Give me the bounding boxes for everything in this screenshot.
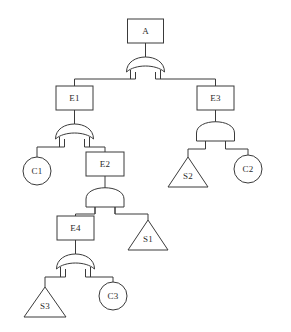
and-gate-icon (197, 122, 235, 141)
node-e3[interactable]: E3 (197, 86, 234, 110)
node-e3-label: E3 (210, 93, 221, 103)
node-c3-label: C3 (108, 291, 119, 301)
node-e1-label: E1 (69, 93, 79, 103)
node-e4[interactable]: E4 (57, 216, 94, 240)
node-e4-label: E4 (70, 223, 81, 233)
edge-gate-e4-right-to-c3 (86, 269, 114, 282)
node-c2-label: C2 (243, 164, 254, 174)
or-gate-icon (127, 57, 165, 72)
edge-gate-e2-left-to-e4 (76, 207, 96, 216)
or-gate-icon (56, 124, 94, 139)
edge-gate-e1-left-to-c1 (37, 139, 65, 157)
edge-gate-e3-right-to-c2 (226, 141, 249, 155)
fault-tree-canvas: A E1 E3 C1 E2 (0, 0, 291, 332)
node-s3[interactable]: S3 (24, 287, 66, 317)
node-s1-label: S1 (143, 234, 153, 244)
fault-tree-diagram: A E1 E3 C1 E2 (0, 0, 291, 332)
node-e2[interactable]: E2 (86, 152, 124, 176)
or-gate-icon (57, 254, 95, 269)
node-c1-label: C1 (32, 166, 43, 176)
node-a-label: A (142, 26, 149, 36)
node-a[interactable]: A (128, 19, 164, 43)
edge-gate-e4-left-to-s3 (45, 269, 66, 287)
edge-gate-e2-right-to-s1 (115, 207, 148, 220)
and-gate-e3[interactable] (197, 122, 235, 149)
and-gate-e2[interactable] (86, 188, 124, 214)
and-gate-icon (86, 188, 124, 207)
node-s3-label: S3 (40, 301, 50, 311)
edge-gate-e1-right-to-e2 (85, 139, 106, 152)
node-e2-label: E2 (100, 159, 110, 169)
node-s2[interactable]: S2 (168, 157, 208, 187)
node-s2-label: S2 (183, 171, 193, 181)
edge-gate-a-right-to-e3 (156, 72, 216, 86)
or-gate-e4[interactable] (57, 254, 95, 277)
node-c1[interactable]: C1 (23, 157, 51, 185)
edge-gate-a-left-to-e1 (75, 72, 136, 86)
node-c3[interactable]: C3 (99, 282, 127, 310)
or-gate-a[interactable] (127, 57, 165, 79)
edge-gate-e3-left-to-s2 (188, 141, 206, 157)
node-c2[interactable]: C2 (234, 155, 262, 183)
node-s1[interactable]: S1 (128, 220, 168, 250)
node-e1[interactable]: E1 (56, 86, 93, 110)
or-gate-e1[interactable] (56, 124, 94, 147)
